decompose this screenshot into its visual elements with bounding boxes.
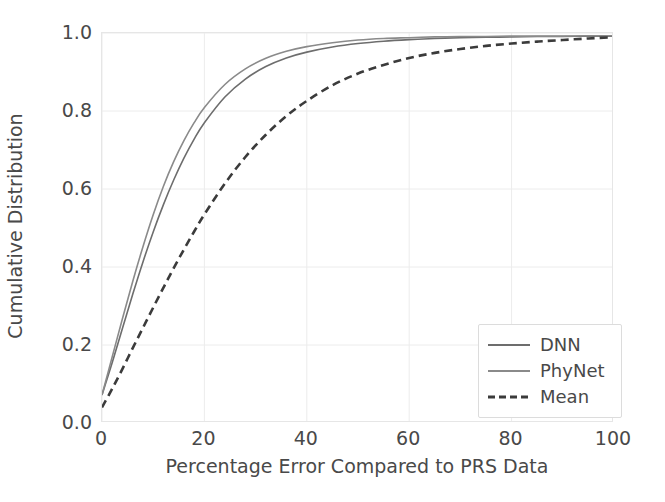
legend-item-mean[interactable]: Mean [487, 384, 613, 410]
y-tick-label: 0.8 [62, 99, 92, 121]
x-tick-label: 40 [294, 427, 318, 449]
cdf-chart-figure: Cumulative Distribution 0.00.20.40.60.81… [0, 0, 665, 502]
y-tick-label: 0.0 [62, 411, 92, 433]
x-tick-label: 100 [595, 427, 631, 449]
y-tick-label: 1.0 [62, 21, 92, 43]
x-tick-label: 80 [499, 427, 523, 449]
chart-legend[interactable]: DNN PhyNet Mean [478, 324, 622, 418]
x-axis-label: Percentage Error Compared to PRS Data [101, 455, 613, 477]
x-tick-label: 60 [396, 427, 420, 449]
legend-label-phynet: PhyNet [540, 362, 605, 380]
legend-line-phynet [487, 364, 531, 378]
legend-item-phynet[interactable]: PhyNet [487, 358, 613, 384]
y-axis-label: Cumulative Distribution [0, 40, 30, 412]
legend-label-mean: Mean [540, 388, 589, 406]
y-tick-label: 0.2 [62, 333, 92, 355]
legend-line-dnn [487, 338, 531, 352]
y-tick-label: 0.4 [62, 255, 92, 277]
x-tick-label: 0 [95, 427, 107, 449]
legend-line-mean [487, 390, 531, 404]
legend-label-dnn: DNN [540, 336, 581, 354]
x-tick-label: 20 [191, 427, 215, 449]
y-tick-label: 0.6 [62, 177, 92, 199]
legend-item-dnn[interactable]: DNN [487, 332, 613, 358]
